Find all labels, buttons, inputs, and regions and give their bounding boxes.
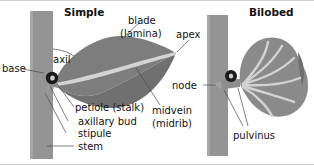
simple-stem (30, 11, 53, 159)
label-base: base (2, 63, 26, 74)
panel-title-simple: Simple (64, 6, 104, 18)
label-stipule: stipule (78, 128, 112, 139)
leaf-morphology-figure: Simple blade (lamina) apex axil base pet… (0, 0, 314, 165)
label-apex: apex (176, 29, 200, 40)
bilobed-stem-highlight (207, 15, 210, 156)
axillary-bud-center (50, 75, 55, 80)
label-axillary-bud: axillary bud (78, 116, 137, 127)
label-pulvinus: pulvinus (233, 130, 275, 141)
label-stem: stem (78, 141, 103, 152)
label-axil: axil (53, 54, 71, 65)
node-bud-center (229, 74, 233, 79)
label-petiole: petiole (stalk) (75, 102, 144, 113)
label-node: node (172, 80, 197, 91)
label-blade: blade (128, 15, 156, 26)
label-lamina: (lamina) (120, 28, 162, 39)
simple-stem-highlight (30, 11, 33, 159)
label-midrib: (midrib) (152, 118, 192, 129)
label-midvein: midvein (152, 105, 192, 116)
panel-title-bilobed: Bilobed (249, 6, 294, 18)
